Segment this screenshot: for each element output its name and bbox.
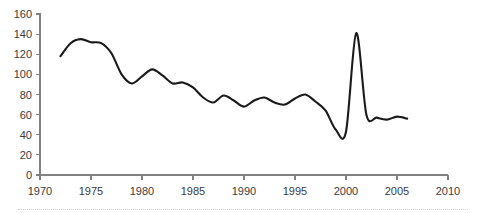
line-chart: 020406080100120140160 197019751980198519… [0, 0, 479, 213]
y-tick-label: 160 [14, 8, 32, 20]
data-series [60, 33, 407, 139]
x-tick-label: 2000 [334, 185, 358, 197]
footer-divider [18, 209, 468, 210]
y-tick-label: 120 [14, 48, 32, 60]
y-tick-label: 80 [20, 89, 32, 101]
y-tick-label: 100 [14, 68, 32, 80]
chart-canvas: 020406080100120140160 197019751980198519… [0, 0, 479, 213]
x-tick-label: 1980 [130, 185, 154, 197]
x-axis: 197019751980198519901995200020052010 [28, 175, 460, 197]
y-tick-label: 40 [20, 129, 32, 141]
y-tick-label: 140 [14, 28, 32, 40]
x-tick-label: 1995 [283, 185, 307, 197]
y-tick-label: 60 [20, 109, 32, 121]
series-line [60, 33, 407, 139]
x-tick-label: 1970 [28, 185, 52, 197]
x-tick-label: 2010 [436, 185, 460, 197]
x-tick-label: 1975 [79, 185, 103, 197]
y-tick-label: 20 [20, 149, 32, 161]
y-tick-label: 0 [26, 169, 32, 181]
x-tick-label: 1990 [232, 185, 256, 197]
x-tick-label: 1985 [181, 185, 205, 197]
y-axis: 020406080100120140160 [14, 8, 40, 181]
x-tick-label: 2005 [385, 185, 409, 197]
